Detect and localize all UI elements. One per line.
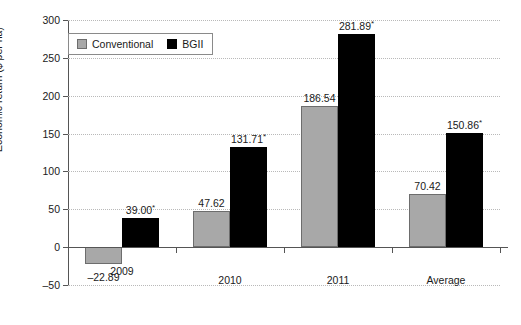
y-axis-label: 250 [0,52,60,64]
y-axis-label-wrap: 200 [0,96,60,108]
value-label-2011-conventional: 186.54 [303,92,335,104]
y-axis-label: 0 [0,241,60,253]
x-axis-label-2011: 2011 [327,274,350,286]
legend-swatch-bgii-icon [167,39,177,49]
bar-Average-conventional [409,194,446,247]
value-label-2010-bgii: 131.71* [231,133,266,145]
y-axis-label-wrap: 50 [0,209,60,221]
y-axis-label-wrap: 0 [0,247,60,259]
gridline [68,58,500,59]
gridline [68,96,500,97]
value-label-Average-bgii: 150.86* [447,119,482,131]
x-axis-label-2009: 2009 [110,265,133,277]
chart-legend: Conventional BGII [68,33,213,55]
x-axis-label-Average: Average [427,274,466,286]
economic-return-bar-chart: Economic return ($ per ha) –500501001502… [0,0,521,325]
y-axis-label-wrap: –50 [0,285,60,297]
gridline [68,171,500,172]
y-axis-label: –50 [0,279,60,291]
value-label-2009-bgii: 39.00* [126,204,155,216]
y-axis-label-wrap: 250 [0,58,60,70]
legend-item-bgii: BGII [167,38,203,50]
y-axis-label: 50 [0,203,60,215]
gridline [68,20,500,21]
legend-item-conventional: Conventional [77,38,153,50]
zero-axis-line [68,247,508,248]
y-axis-label-wrap: 300 [0,20,60,32]
bar-2011-bgii [338,34,375,247]
y-axis-label: 300 [0,14,60,26]
bar-2009-conventional [85,247,122,264]
bar-2010-bgii [230,147,267,247]
gridline [68,134,500,135]
y-axis-label-wrap: 150 [0,134,60,146]
bar-Average-bgii [446,133,483,247]
value-label-2011-bgii: 281.89* [339,20,374,32]
x-axis-label-2010: 2010 [218,274,241,286]
bar-2009-bgii [122,218,159,248]
y-axis-label-wrap: 100 [0,171,60,183]
value-label-Average-conventional: 70.42 [414,180,440,192]
y-axis-label: 100 [0,165,60,177]
bar-2010-conventional [193,211,230,247]
legend-label-bgii: BGII [182,38,203,50]
plot-area: –22.8939.00*47.62131.71*186.54281.89*70.… [68,20,500,285]
legend-label-conventional: Conventional [92,38,153,50]
y-axis-label: 200 [0,90,60,102]
bar-2011-conventional [301,106,338,247]
y-axis-label: 150 [0,128,60,140]
value-label-2010-conventional: 47.62 [198,197,224,209]
legend-swatch-conventional-icon [77,39,87,49]
